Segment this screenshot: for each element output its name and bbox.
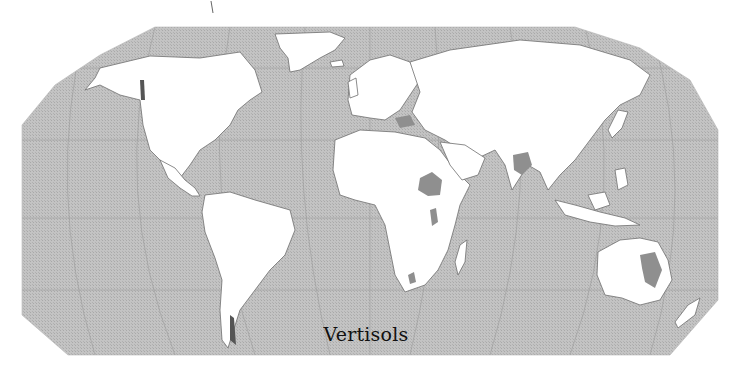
world-map: Vertisols	[0, 0, 732, 367]
map-title: Vertisols	[0, 323, 732, 345]
great-britain	[348, 78, 358, 98]
stray-mark	[210, 1, 214, 13]
world-map-canvas	[0, 0, 732, 367]
